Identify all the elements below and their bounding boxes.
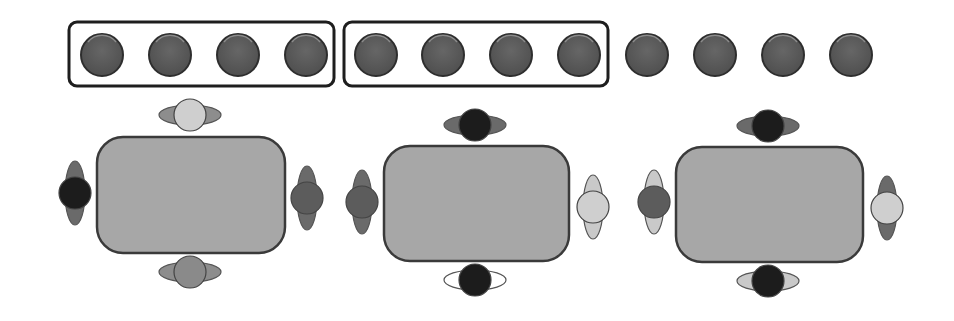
- counter-12: [830, 34, 872, 76]
- counter-5: [355, 34, 397, 76]
- head-icon: [346, 186, 378, 218]
- person-top: [737, 110, 799, 142]
- person-left: [638, 170, 670, 234]
- head-icon: [752, 265, 784, 297]
- tables: [59, 99, 903, 297]
- person-right: [291, 166, 323, 230]
- table-group-3: [638, 110, 903, 297]
- table-group-2: [346, 109, 609, 296]
- head-icon: [638, 186, 670, 218]
- counter-3: [217, 34, 259, 76]
- person-top: [444, 109, 506, 141]
- head-icon: [577, 191, 609, 223]
- counters-row: [81, 34, 872, 76]
- head-icon: [871, 192, 903, 224]
- table-group-1: [59, 99, 323, 288]
- person-right: [577, 175, 609, 239]
- table-2: [384, 146, 569, 261]
- head-icon: [459, 264, 491, 296]
- counter-6: [422, 34, 464, 76]
- counter-1: [81, 34, 123, 76]
- person-bottom: [444, 264, 506, 296]
- table-3: [676, 147, 863, 262]
- table-1: [97, 137, 285, 253]
- head-icon: [174, 256, 206, 288]
- head-icon: [752, 110, 784, 142]
- head-icon: [59, 177, 91, 209]
- person-right: [871, 176, 903, 240]
- person-top: [159, 99, 221, 131]
- counter-7: [490, 34, 532, 76]
- head-icon: [459, 109, 491, 141]
- diagram-canvas: [0, 0, 954, 321]
- head-icon: [174, 99, 206, 131]
- counter-10: [694, 34, 736, 76]
- counter-2: [149, 34, 191, 76]
- counter-4: [285, 34, 327, 76]
- person-left: [346, 170, 378, 234]
- person-bottom: [737, 265, 799, 297]
- person-left: [59, 161, 91, 225]
- counter-11: [762, 34, 804, 76]
- head-icon: [291, 182, 323, 214]
- counter-8: [558, 34, 600, 76]
- counter-9: [626, 34, 668, 76]
- person-bottom: [159, 256, 221, 288]
